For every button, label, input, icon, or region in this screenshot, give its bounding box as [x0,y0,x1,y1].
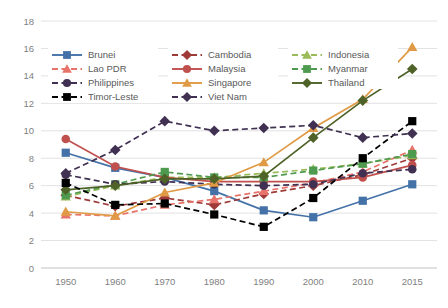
series-marker [110,145,121,156]
x-axis-tick-label: 1980 [204,276,225,287]
series-marker [62,179,70,187]
chart-canvas: 0246810121416181950196019701980199020002… [0,0,448,308]
legend-item[interactable]: Indonesia [288,47,398,61]
legend-item[interactable]: Malaysia [168,61,278,75]
legend-label: Lao PDR [88,63,127,74]
y-axis-tick-label: 16 [23,43,34,54]
legend-label: Thailand [328,77,364,88]
series-marker [303,65,311,73]
y-axis-tick-label: 6 [29,180,34,191]
x-axis-tick-label: 1950 [55,276,76,287]
legend: BruneiCambodiaIndonesiaLao PDRMalaysiaMy… [48,47,398,103]
series-marker [407,42,417,51]
legend-label: Indonesia [328,49,370,60]
legend-item[interactable]: Timor-Leste [48,89,158,103]
series-marker [111,162,120,171]
series-marker [61,207,71,216]
series-marker [259,181,268,190]
series-marker [60,168,71,179]
x-axis-tick-label: 2010 [352,276,373,287]
y-axis-tick-label: 4 [29,208,34,219]
x-axis-tick-label: 2015 [402,276,423,287]
series-marker [408,165,417,174]
legend-item[interactable]: Brunei [48,47,158,61]
legend-label: Viet Nam [208,91,247,102]
series-marker [309,166,317,174]
series-marker [260,206,268,214]
series-marker [61,135,70,144]
legend-label: Timor-Leste [88,91,138,102]
series-marker [209,125,220,136]
series-marker [408,150,416,158]
legend-item[interactable]: Singapore [168,75,278,89]
series-marker [63,93,71,101]
series-marker [357,132,368,143]
series-marker [210,210,218,218]
x-axis-tick-label: 1990 [253,276,274,287]
series-marker [258,123,269,134]
legend-item[interactable]: Lao PDR [48,61,158,75]
y-axis-tick-label: 0 [29,263,34,274]
legend-label: Malaysia [208,63,246,74]
y-axis-tick-label: 10 [23,125,34,136]
legend-label: Brunei [88,49,115,60]
line-chart: 0246810121416181950196019701980199020002… [0,0,448,308]
series-marker [62,149,70,157]
legend-item[interactable]: Philippines [48,75,158,89]
series-marker [359,197,367,205]
series-marker [183,65,191,73]
series-marker [111,201,119,209]
series-marker [408,117,416,125]
series-marker [63,51,71,59]
series-marker [358,169,367,178]
series-marker [308,120,319,131]
x-axis-tick-label: 2000 [303,276,324,287]
legend-label: Myanmar [328,63,368,74]
series-marker [159,116,170,127]
series-marker [260,223,268,231]
legend-item[interactable]: Thailand [288,75,398,89]
legend-item[interactable]: Cambodia [168,47,278,61]
legend-label: Singapore [208,77,251,88]
legend-label: Cambodia [208,49,252,60]
y-axis-tick-label: 8 [29,153,34,164]
y-axis-tick-label: 12 [23,98,34,109]
series-marker [63,79,71,87]
series-marker [161,199,169,207]
series-marker [359,154,367,162]
legend-label: Philippines [88,77,134,88]
legend-item[interactable]: Viet Nam [168,89,278,103]
x-axis-tick-label: 1970 [154,276,175,287]
series-marker [407,128,418,139]
series-marker [407,64,418,75]
x-axis-tick-label: 1960 [105,276,126,287]
series-marker [408,180,416,188]
y-axis-tick-label: 2 [29,235,34,246]
legend-item[interactable]: Myanmar [288,61,398,75]
x-axis: 19501960197019801990200020102015 [55,276,423,287]
series-marker [309,213,317,221]
y-axis-tick-label: 14 [23,70,34,81]
y-axis-tick-label: 18 [23,16,34,27]
series-marker [309,180,318,189]
series-marker [309,194,317,202]
